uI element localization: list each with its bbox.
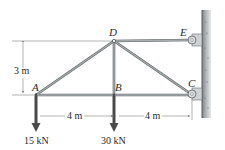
joint-b	[113, 94, 116, 97]
joint-label-d: D	[108, 26, 117, 38]
dimension-span-right: 4 m	[145, 110, 161, 121]
member-ad	[36, 41, 114, 95]
joint-label-a: A	[31, 81, 39, 93]
load-label-a: 15 kN	[24, 135, 49, 146]
member-cd	[114, 41, 191, 94]
dimension-lines	[12, 41, 192, 120]
joint-a	[35, 94, 38, 97]
truss-members	[36, 40, 191, 95]
joint-label-b: B	[115, 81, 122, 93]
load-arrow-b	[110, 96, 119, 132]
load-arrow-a	[32, 96, 41, 132]
truss-diagram: D E C B A 3 m 4 m 4 m 15 kN 30 kN	[0, 0, 225, 150]
dimension-span-left: 4 m	[67, 110, 83, 121]
load-label-b: 30 kN	[101, 135, 126, 146]
joint-label-c: C	[188, 77, 196, 89]
member-de	[114, 40, 191, 41]
dimension-height: 3 m	[14, 65, 30, 76]
joint-d	[112, 39, 115, 42]
joint-label-e: E	[179, 26, 187, 38]
support-e	[188, 34, 202, 46]
fixed-wall	[202, 10, 211, 118]
support-c	[188, 88, 202, 100]
